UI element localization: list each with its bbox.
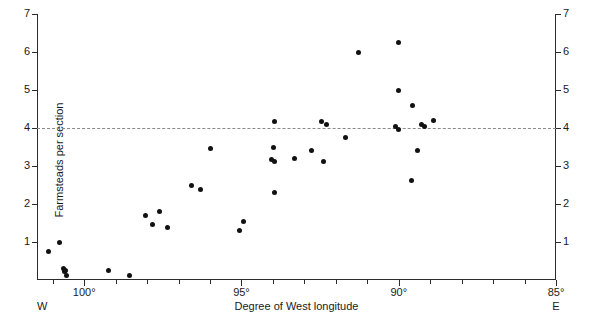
data-point	[324, 122, 329, 127]
x-tick-label-90: 90°	[390, 287, 407, 298]
data-point	[321, 159, 326, 164]
scatter-chart-figure: Farmsteads per section 1234567 1234567 1…	[0, 0, 593, 320]
data-point	[237, 228, 242, 233]
data-point	[431, 118, 436, 123]
data-point	[198, 187, 203, 192]
data-point	[292, 156, 297, 161]
data-point	[106, 268, 111, 273]
data-point	[396, 88, 401, 93]
data-point	[356, 50, 361, 55]
y-tick-label-right-3: 3	[563, 160, 569, 171]
y-tick-label-left-4: 4	[24, 122, 30, 133]
data-point	[422, 124, 427, 129]
data-point	[157, 209, 162, 214]
y-tick-right-7	[556, 14, 561, 15]
y-tick-left-5	[32, 90, 37, 91]
y-tick-label-right-7: 7	[563, 8, 569, 19]
reference-line-y4	[37, 128, 556, 129]
y-tick-right-2	[556, 204, 561, 205]
plot-area: 1234567 1234567 100°95°90°85°	[37, 14, 556, 280]
y-tick-left-2	[32, 204, 37, 205]
y-tick-label-left-3: 3	[24, 160, 30, 171]
data-point	[396, 40, 401, 45]
y-axis-left-line	[37, 14, 38, 280]
x-minor-tick-86	[525, 280, 526, 284]
y-tick-right-6	[556, 52, 561, 53]
x-minor-tick-93	[304, 280, 305, 284]
data-point	[396, 127, 401, 132]
x-minor-tick-91	[367, 280, 368, 284]
data-point	[343, 135, 348, 140]
data-point	[208, 146, 213, 151]
x-minor-tick-101	[53, 280, 54, 284]
y-tick-right-4	[556, 128, 561, 129]
data-point	[272, 159, 277, 164]
y-tick-left-3	[32, 166, 37, 167]
data-point	[46, 249, 51, 254]
y-tick-label-right-2: 2	[563, 198, 569, 209]
x-tick-label-85: 85°	[548, 287, 565, 298]
y-tick-label-left-1: 1	[24, 236, 30, 247]
x-minor-tick-94	[273, 280, 274, 284]
y-tick-label-left-2: 2	[24, 198, 30, 209]
data-point	[409, 178, 414, 183]
data-point	[127, 273, 132, 278]
data-point	[410, 103, 415, 108]
data-point	[64, 273, 69, 278]
y-axis-right-line	[555, 14, 556, 280]
y-tick-label-right-5: 5	[563, 84, 569, 95]
y-tick-label-right-6: 6	[563, 46, 569, 57]
data-point	[241, 219, 246, 224]
y-tick-right-3	[556, 166, 561, 167]
y-tick-label-right-1: 1	[563, 236, 569, 247]
data-point	[272, 190, 277, 195]
data-point	[57, 240, 62, 245]
x-minor-tick-96	[210, 280, 211, 284]
y-tick-label-left-6: 6	[24, 46, 30, 57]
y-tick-left-1	[32, 242, 37, 243]
x-minor-tick-88	[462, 280, 463, 284]
east-end-marker: E	[552, 300, 559, 312]
y-tick-right-5	[556, 90, 561, 91]
data-point	[150, 222, 155, 227]
y-tick-label-left-7: 7	[24, 8, 30, 19]
x-tick-label-100: 100°	[73, 287, 96, 298]
x-minor-tick-97	[179, 280, 180, 284]
x-tick-label-95: 95°	[233, 287, 250, 298]
y-tick-label-right-4: 4	[563, 122, 569, 133]
x-minor-tick-92	[336, 280, 337, 284]
y-tick-label-left-5: 5	[24, 84, 30, 95]
data-point	[272, 119, 277, 124]
data-point	[271, 145, 276, 150]
data-point	[165, 225, 170, 230]
y-tick-right-1	[556, 242, 561, 243]
y-tick-left-7	[32, 14, 37, 15]
y-tick-left-4	[32, 128, 37, 129]
data-point	[309, 148, 314, 153]
data-point	[189, 183, 194, 188]
x-minor-tick-87	[493, 280, 494, 284]
y-tick-left-6	[32, 52, 37, 53]
x-minor-tick-99	[116, 280, 117, 284]
x-axis-title: Degree of West longitude	[37, 300, 556, 312]
x-minor-tick-98	[147, 280, 148, 284]
x-minor-tick-89	[430, 280, 431, 284]
data-point	[415, 148, 420, 153]
data-point	[143, 213, 148, 218]
